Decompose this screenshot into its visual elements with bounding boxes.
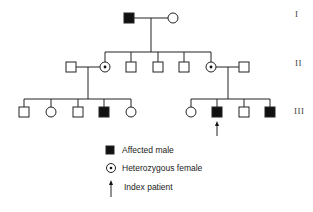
male-gen3 bbox=[239, 107, 249, 117]
male-gen2 bbox=[179, 62, 189, 72]
male-gen2 bbox=[153, 62, 163, 72]
male-gen3 bbox=[19, 107, 29, 117]
female-gen3 bbox=[126, 107, 136, 117]
affected-male-gen1 bbox=[124, 13, 134, 23]
male-spouse-left bbox=[66, 62, 76, 72]
male-gen3 bbox=[73, 107, 83, 117]
male-spouse-right bbox=[239, 62, 249, 72]
female-gen3 bbox=[186, 107, 196, 117]
legend-index-patient-label: Index patient bbox=[124, 182, 173, 192]
male-gen2 bbox=[126, 62, 136, 72]
generation-label-II: II bbox=[295, 58, 302, 68]
generation-label-I: I bbox=[295, 9, 299, 19]
female-gen3 bbox=[46, 107, 56, 117]
legend-heterozygous-female-label: Heterozygous female bbox=[122, 163, 202, 173]
affected-male-gen3 bbox=[265, 107, 275, 117]
legend-affected-male-icon bbox=[106, 146, 114, 154]
legend-affected-male-label: Affected male bbox=[122, 145, 174, 155]
affected-male-gen3 bbox=[99, 107, 109, 117]
female-gen1 bbox=[168, 13, 178, 23]
pedigree-chart bbox=[0, 0, 313, 212]
generation-label-III: III bbox=[294, 106, 305, 116]
index-patient bbox=[212, 107, 222, 117]
